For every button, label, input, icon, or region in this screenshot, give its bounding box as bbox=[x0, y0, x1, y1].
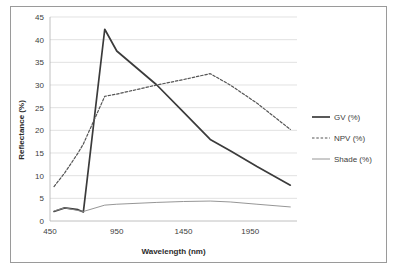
y-tick-label: 15 bbox=[35, 149, 44, 158]
x-tick-label: 1450 bbox=[175, 227, 193, 236]
x-axis-title: Wavelength (nm) bbox=[141, 247, 205, 256]
y-tick-label: 40 bbox=[35, 36, 44, 45]
legend-label: Shade (%) bbox=[334, 155, 372, 164]
y-tick-label: 35 bbox=[35, 58, 44, 67]
y-tick-label: 25 bbox=[35, 104, 44, 113]
x-tick-label: 950 bbox=[110, 227, 124, 236]
series-line bbox=[54, 29, 290, 212]
y-tick-label: 5 bbox=[40, 194, 45, 203]
y-tick-label: 0 bbox=[40, 217, 45, 226]
gridlines bbox=[50, 17, 297, 198]
y-axis-tick-labels: 051015202530354045 bbox=[35, 13, 44, 226]
y-axis-title: Reflectance (%) bbox=[17, 100, 26, 160]
y-tick-label: 20 bbox=[35, 126, 44, 135]
figure-container: 051015202530354045 45095014501950 GV (%)… bbox=[0, 0, 398, 273]
data-series-group bbox=[54, 29, 290, 212]
x-tick-label: 450 bbox=[43, 227, 57, 236]
x-tick-label: 1950 bbox=[241, 227, 259, 236]
legend-label: GV (%) bbox=[334, 113, 361, 122]
y-tick-label: 45 bbox=[35, 13, 44, 22]
line-chart: 051015202530354045 45095014501950 GV (%)… bbox=[0, 0, 398, 273]
series-line bbox=[54, 201, 290, 211]
legend-label: NPV (%) bbox=[334, 134, 365, 143]
axis-lines bbox=[50, 17, 297, 221]
chart-legend: GV (%)NPV (%)Shade (%) bbox=[312, 113, 372, 164]
y-tick-label: 10 bbox=[35, 172, 44, 181]
x-axis-tick-labels: 45095014501950 bbox=[43, 227, 259, 236]
y-tick-label: 30 bbox=[35, 81, 44, 90]
